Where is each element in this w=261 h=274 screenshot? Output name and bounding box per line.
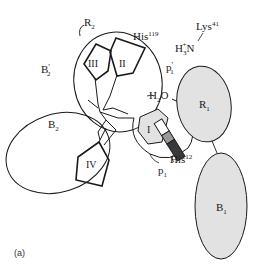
ribonuclease-subsite-diagram: R2 B′2 B2 III II I IV His119 Lys41 H3+N …	[0, 0, 261, 274]
lys41-leader-line	[198, 33, 203, 41]
pentagon-ii	[110, 38, 145, 76]
pentagon-i-label: I	[147, 124, 150, 135]
b2-prime-label: B′2	[41, 63, 51, 78]
pentagon-ii-label: II	[119, 58, 126, 69]
backbone-chain	[88, 75, 134, 145]
panel-label: (a)	[14, 248, 25, 258]
p1-leader-line	[150, 154, 159, 163]
pentagon-iii-label: III	[88, 58, 98, 69]
water-label: H2O	[149, 89, 168, 104]
r1-b1-linker	[212, 141, 217, 153]
amine-label: H3+N	[175, 41, 194, 57]
lys41-label: Lys41	[196, 20, 219, 32]
pentagon-iv-label: IV	[86, 159, 97, 170]
pentagon-iv-link	[99, 128, 106, 142]
his119-label: His119	[133, 30, 159, 42]
p1-label: p1	[158, 164, 168, 179]
r2-label: R2	[84, 16, 95, 31]
b2-label: B2	[48, 118, 59, 133]
his12-label: His12	[170, 153, 193, 165]
p1-prime-label: p′1	[166, 61, 174, 76]
